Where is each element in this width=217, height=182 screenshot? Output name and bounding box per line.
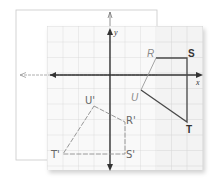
vertex-label-r: R [147, 48, 154, 59]
vertex-label-s-prime: S' [126, 149, 135, 160]
vertex-label-t-prime: T' [50, 149, 60, 160]
vertex-label-u: U [131, 92, 139, 103]
x-axis-label: x [195, 78, 200, 87]
vertex-label-s: S [188, 48, 195, 59]
vertex-label-r-prime: R' [126, 115, 136, 126]
coordinate-diagram: x y R S T U U' R' S' T' [0, 0, 217, 182]
y-axis-label: y [113, 28, 118, 37]
shaded-grid-lines [157, 26, 203, 170]
vertex-label-u-prime: U' [85, 95, 95, 106]
vertex-label-t: T [186, 124, 192, 135]
